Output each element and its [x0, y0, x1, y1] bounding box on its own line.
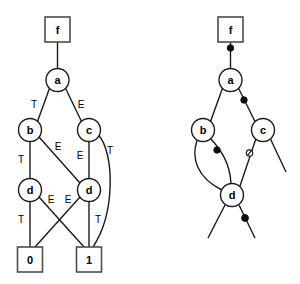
diagram-svg: T E T E E T T E E T f a b	[0, 0, 300, 284]
node-a[interactable]: a	[46, 69, 69, 92]
terminal-one[interactable]: 1	[77, 247, 102, 272]
redge-d-dangling-right	[239, 205, 255, 238]
redge-b-d-right	[211, 139, 232, 184]
node-a-label: a	[54, 74, 61, 86]
node-d-right-label: d	[86, 184, 93, 196]
redge-c-d	[240, 139, 256, 187]
rnode-d[interactable]: d	[221, 184, 244, 207]
redge-a-c	[239, 88, 256, 121]
complement-dot-f-a-icon	[227, 45, 233, 51]
rnode-a-label: a	[227, 74, 234, 86]
terminal-zero[interactable]: 0	[18, 247, 43, 272]
regular-dot-c-d-icon	[246, 150, 252, 156]
edge-label-b-d2: E	[55, 141, 62, 152]
complement-dot-b-d-icon	[214, 147, 220, 153]
node-b-label: b	[27, 124, 34, 136]
figure-container: T E T E E T T E E T f a b	[0, 0, 300, 284]
redge-d-dangling-left	[208, 205, 225, 238]
edge-d1-t1	[39, 197, 84, 247]
edge-a-b	[38, 88, 50, 121]
left-panel: T E T E E T T E E T f a b	[18, 17, 114, 272]
edge-label-a-c: E	[78, 99, 85, 110]
node-d-left-label: d	[27, 184, 34, 196]
edge-label-b-d1: T	[18, 154, 24, 165]
edge-label-d1-t1: E	[48, 194, 55, 205]
node-d-right[interactable]: d	[78, 179, 101, 202]
rnode-f[interactable]: f	[218, 17, 243, 42]
rnode-c[interactable]: c	[252, 119, 275, 142]
edge-label-c-d2: E	[77, 150, 84, 161]
edge-label-d2-t1: T	[95, 214, 101, 225]
terminal-one-label: 1	[86, 254, 92, 266]
node-c-label: c	[86, 124, 92, 136]
terminal-zero-label: 0	[27, 254, 33, 266]
edge-label-d2-t0: E	[65, 194, 72, 205]
edge-label-d1-t0: T	[18, 214, 24, 225]
complement-dot-d-out-icon	[242, 215, 249, 222]
node-b[interactable]: b	[19, 119, 42, 142]
rnode-c-label: c	[260, 124, 266, 136]
node-d-left[interactable]: d	[19, 179, 42, 202]
right-panel: f a b c d	[192, 17, 287, 238]
rnode-b[interactable]: b	[192, 119, 215, 142]
rnode-d-label: d	[229, 189, 236, 201]
redge-a-b	[211, 88, 223, 121]
node-f-label: f	[56, 24, 60, 36]
rnode-b-label: b	[200, 124, 207, 136]
edge-label-c-t1: T	[107, 145, 113, 156]
rnode-f-label: f	[229, 24, 233, 36]
node-c[interactable]: c	[78, 119, 101, 142]
complement-dot-a-c-icon	[241, 97, 247, 103]
node-f[interactable]: f	[45, 17, 70, 42]
edge-d2-t0	[35, 197, 80, 247]
edge-label-a-b: T	[31, 99, 37, 110]
redge-c-dangling	[270, 138, 286, 172]
rnode-a[interactable]: a	[219, 69, 242, 92]
